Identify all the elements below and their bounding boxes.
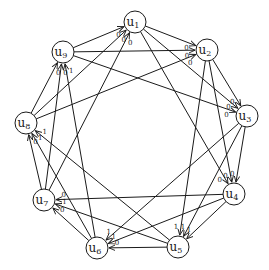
edge-label-u9-u1: 0 <box>116 31 120 39</box>
edge-u2-u4 <box>209 61 232 182</box>
node-u7: u7 <box>33 189 55 211</box>
node-u6: u6 <box>86 237 108 259</box>
node-u4: u4 <box>223 183 245 205</box>
edge-label-u3-u6: 1 <box>106 228 110 236</box>
edge-u3-u5 <box>184 126 242 237</box>
node-u1: u1 <box>124 11 146 33</box>
node-u2: u2 <box>196 39 218 61</box>
edge-label-u8-u1: 0 <box>121 36 125 44</box>
edge-label-u8-u9: 0 <box>56 69 60 77</box>
edge-label-u3-u4: 0 <box>230 170 234 178</box>
edge-label-u7-u8: 0 <box>33 138 37 146</box>
node-u5: u5 <box>167 236 189 258</box>
edge-label-u7-u1: 0 <box>128 39 132 47</box>
edge-label-u2-u5: 1 <box>174 223 178 231</box>
edge-u9-u2 <box>74 50 195 52</box>
edge-label-u6-u9: 1 <box>69 67 73 75</box>
edge-label-u9-u3: 0 <box>224 111 228 119</box>
edge-u8-u1 <box>34 30 126 115</box>
edge-u2-u5 <box>180 61 206 235</box>
edge-label-u8-u2: 0 <box>188 59 192 67</box>
edge-u4-u7 <box>56 194 223 199</box>
node-u9: u9 <box>52 41 74 63</box>
edge-label-u5-u8: 1 <box>42 128 46 136</box>
edge-u9-u3 <box>73 56 235 112</box>
graph-diagram: 000000000000111110010011001 u1u2u3u4u5u6… <box>0 0 269 270</box>
edge-label-u3-u5: 1 <box>181 223 185 231</box>
nodes-layer: u1u2u3u4u5u6u7u8u9 <box>15 11 258 259</box>
edge-label-u1-u2: 0 <box>184 44 188 52</box>
edge-u5-u8 <box>35 131 169 240</box>
edge-label-u4-u5: 1 <box>187 226 191 234</box>
edge-label-u2-u4: 0 <box>223 172 227 180</box>
edge-label-u7-u9: 0 <box>63 69 67 77</box>
node-u3: u3 <box>236 105 258 127</box>
edge-u1-u2 <box>145 26 196 46</box>
edge-label-u2-u3: 0 <box>230 98 234 106</box>
graph-canvas: 000000000000111110010011001 u1u2u3u4u5u6… <box>0 0 269 270</box>
edge-label-u5-u7: 1 <box>62 198 66 206</box>
edge-label-u5-u6: 0 <box>115 239 119 247</box>
edge-label-u6-u7: 0 <box>60 206 64 214</box>
node-u8: u8 <box>15 112 37 134</box>
edge-label-u1-u4: 0 <box>217 176 221 184</box>
